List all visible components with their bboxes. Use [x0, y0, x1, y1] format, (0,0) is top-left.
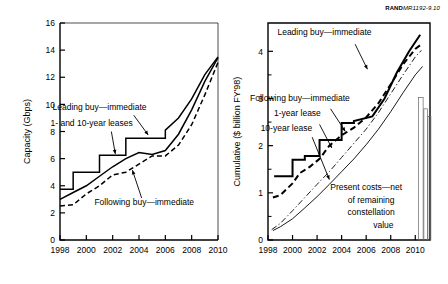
chart-annotation: value — [373, 220, 394, 230]
capacity-chart: 0246810121416 19982000200220042006200820… — [22, 18, 228, 255]
x-tick-label: 2008 — [381, 245, 400, 255]
chart-annotation: Leading buy—immediate — [277, 27, 371, 37]
y-tick-label: 14 — [46, 45, 56, 55]
leader-arrowhead — [144, 130, 148, 134]
x-tick-label: 1998 — [259, 245, 278, 255]
cumulative-cost-chart: 01234 1998200020022004200620082010 Cumul… — [232, 23, 431, 255]
capacity-chart-annotations: Leading buy—immediate1- and 10-year leas… — [50, 102, 194, 207]
cumulative-cost-chart-bars — [418, 98, 430, 240]
x-tick-label: 2002 — [308, 245, 327, 255]
x-tick-label: 2000 — [77, 245, 96, 255]
cumulative-cost-chart-x-tick-labels: 1998200020022004200620082010 — [259, 245, 425, 255]
x-tick-label: 2008 — [182, 245, 201, 255]
chart-annotation: 1- and 10-year leases — [50, 118, 132, 128]
cumulative-cost-chart-x-ticks — [268, 235, 415, 240]
x-tick-label: 1998 — [51, 245, 70, 255]
chart-annotation: Following buy—immediate — [250, 93, 350, 103]
capacity-chart-y-ticks — [60, 23, 65, 240]
x-tick-label: 2010 — [406, 245, 425, 255]
series-line — [273, 66, 423, 230]
x-tick-label: 2004 — [332, 245, 351, 255]
x-tick-label: 2000 — [283, 245, 302, 255]
leader-arrowhead — [132, 170, 135, 174]
y-tick-label: 8 — [50, 127, 55, 137]
series-line — [274, 35, 420, 177]
figure-credit: RANDMR1192-9.10 — [385, 5, 440, 11]
cumulative-cost-chart-y-tick-labels: 01234 — [258, 47, 263, 246]
y-tick-label: 2 — [50, 208, 55, 218]
x-tick-label: 2010 — [209, 245, 228, 255]
capacity-chart-axes — [60, 23, 218, 240]
x-tick-label: 2006 — [357, 245, 376, 255]
leader-line — [312, 137, 329, 179]
cumulative-cost-chart-annotations: Leading buy—immediateFollowing buy—immed… — [250, 27, 403, 230]
y-tick-label: 6 — [50, 154, 55, 164]
y-tick-label: 0 — [50, 235, 55, 245]
series-line — [60, 62, 218, 206]
cumulative-cost-chart-y-ticks — [268, 51, 273, 240]
y-tick-label: 4 — [258, 47, 263, 57]
capacity-chart-series — [60, 57, 218, 206]
y-tick-label: 1 — [258, 188, 263, 198]
capacity-chart-x-tick-labels: 1998200020022004200620082010 — [51, 245, 228, 255]
figure-root: RANDMR1192-9.10 0246810121416 1998200020… — [0, 0, 448, 284]
series-line — [60, 58, 218, 200]
cost-bar — [418, 98, 423, 240]
chart-annotation: Leading buy—immediate — [52, 102, 146, 112]
capacity-chart-x-ticks — [60, 235, 218, 240]
chart-annotation: Following buy—immediate — [94, 197, 194, 207]
leader-line — [132, 170, 141, 198]
y-tick-label: 16 — [46, 18, 56, 28]
capacity-chart-y-axis-label: Capacity (Gbps) — [22, 99, 32, 164]
cumulative-cost-chart-y-axis-label: Cumulative ($ billion FY'98) — [232, 77, 242, 187]
x-tick-label: 2004 — [130, 245, 149, 255]
credit-number: MR1192-9.10 — [403, 5, 440, 11]
charts-canvas: 0246810121416 19982000200220042006200820… — [0, 0, 448, 284]
x-tick-label: 2002 — [103, 245, 122, 255]
y-tick-label: 0 — [258, 235, 263, 245]
chart-annotation: 1-year lease — [274, 108, 321, 118]
chart-annotation: Present costs—net — [330, 182, 402, 192]
y-tick-label: 12 — [46, 72, 56, 82]
leader-arrowhead — [113, 150, 117, 154]
leader-line — [355, 44, 367, 69]
chart-annotation: 10-year lease — [261, 123, 313, 133]
series-line — [272, 50, 422, 229]
x-tick-label: 2006 — [156, 245, 175, 255]
y-tick-label: 4 — [50, 181, 55, 191]
capacity-chart-y-tick-labels: 0246810121416 — [46, 18, 56, 245]
chart-annotation: constellation — [347, 207, 395, 217]
cost-bar — [424, 109, 428, 240]
credit-brand: RAND — [385, 5, 403, 11]
y-tick-label: 2 — [258, 141, 263, 151]
chart-annotation: of remaining — [348, 195, 395, 205]
